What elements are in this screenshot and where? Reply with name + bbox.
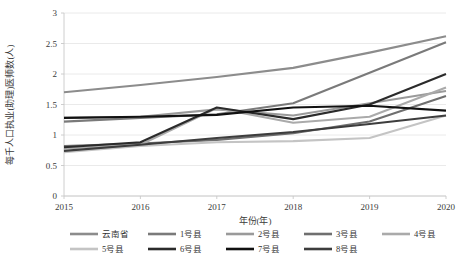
x-axis-title: 年份(年): [239, 215, 272, 226]
legend-label-云南省: 云南省: [102, 229, 129, 239]
chart-legend: 云南省1号县2号县3号县4号县5号县6号县7号县8号县: [70, 229, 436, 254]
legend-label-2号县: 2号县: [258, 229, 280, 239]
legend-label-3号县: 3号县: [336, 229, 358, 239]
line-chart: 00.511.522.53 201520162017201820192020 每…: [0, 0, 468, 267]
legend-label-1号县: 1号县: [180, 229, 202, 239]
y-tick-label: 2.5: [46, 39, 58, 49]
y-tick-label: 1: [53, 130, 58, 140]
legend-label-5号县: 5号县: [102, 244, 124, 254]
x-tick-labels: 201520162017201820192020: [55, 202, 456, 212]
y-tick-label: 3: [53, 8, 58, 18]
legend-label-4号县: 4号县: [414, 229, 436, 239]
legend-label-8号县: 8号县: [336, 244, 358, 254]
y-tick-label: 1.5: [46, 100, 58, 110]
x-tick-label: 2020: [437, 202, 456, 212]
x-tick-label: 2017: [208, 202, 227, 212]
x-tick-label: 2015: [55, 202, 74, 212]
y-tick-label: 0: [53, 191, 58, 201]
x-tick-label: 2018: [284, 202, 303, 212]
gridlines: [64, 13, 446, 196]
y-tick-label: 0.5: [46, 161, 58, 171]
y-tick-labels: 00.511.522.53: [46, 8, 58, 201]
x-axis-title-text: 年份(年): [239, 215, 272, 226]
chart-canvas: 00.511.522.53 201520162017201820192020 每…: [0, 0, 468, 267]
legend-label-7号县: 7号县: [258, 244, 280, 254]
x-tick-label: 2016: [131, 202, 150, 212]
y-tick-label: 2: [53, 69, 58, 79]
x-tick-label: 2019: [361, 202, 380, 212]
legend-label-6号县: 6号县: [180, 244, 202, 254]
y-axis-title-text: 每千人口执业(助理)医师数(人): [4, 45, 15, 165]
y-axis-title: 每千人口执业(助理)医师数(人): [4, 45, 15, 165]
